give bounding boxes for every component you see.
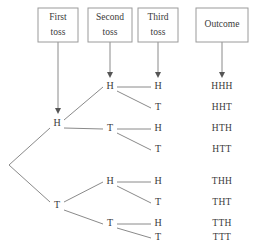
- pointer-first-toss-arrowhead: [55, 108, 61, 114]
- node-l1-0-h: H: [53, 117, 60, 128]
- node-l2-3-t: T: [107, 217, 113, 228]
- branch-l2-3-to-l3-7: [117, 228, 151, 238]
- coin-toss-tree-diagram: FirsttossSecondtossThirdtossOutcome HTHT…: [0, 0, 255, 250]
- node-l3-5-t: T: [155, 196, 161, 207]
- outcome-label-thh: THH: [212, 176, 232, 186]
- header-box-first-toss-line1: First: [49, 12, 67, 22]
- outcome-label-hhh: HHH: [211, 81, 232, 91]
- node-l3-2-h: H: [154, 122, 161, 133]
- node-l2-0-h: H: [106, 80, 113, 91]
- pointer-second-toss-arrowhead: [107, 72, 113, 78]
- branch-lines-group: [9, 87, 151, 238]
- header-box-outcome-label: Outcome: [205, 19, 240, 29]
- node-l1-1-t: T: [54, 199, 60, 210]
- outcome-label-ttt: TTT: [213, 232, 231, 242]
- node-l3-3-t: T: [155, 143, 161, 154]
- branch-l1-1-to-l2-2: [64, 182, 103, 202]
- tree-diagram-canvas: FirsttossSecondtossThirdtossOutcome HTHT…: [0, 0, 255, 250]
- node-l3-4-h: H: [154, 175, 161, 186]
- branch-l1-1-to-l2-3: [64, 210, 103, 224]
- header-box-second-toss-line2: toss: [103, 27, 118, 37]
- branch-l1-0-to-l2-0: [64, 87, 103, 120]
- header-box-first-toss-line2: toss: [51, 27, 66, 37]
- outcome-label-tth: TTH: [212, 218, 231, 228]
- outcome-labels-group: HHHHHTHTHHTTTHHTHTTTHTTT: [211, 81, 232, 242]
- node-l2-1-t: T: [107, 122, 113, 133]
- branch-l2-1-to-l3-3: [117, 133, 151, 150]
- tree-nodes-group: HTHTHTHTHTHTHT: [53, 80, 161, 242]
- header-box-third-toss-line1: Third: [147, 12, 168, 22]
- node-l3-0-h: H: [154, 80, 161, 91]
- node-l2-2-h: H: [106, 175, 113, 186]
- outcome-label-hht: HHT: [212, 102, 232, 112]
- pointer-third-toss-arrowhead: [155, 72, 161, 78]
- branch-root-to-h-0: [9, 128, 50, 165]
- branch-l2-2-to-l3-5: [117, 186, 151, 203]
- branch-l1-0-to-l2-1: [64, 128, 103, 129]
- header-box-second-toss-line1: Second: [96, 12, 124, 22]
- header-box-third-toss-line2: toss: [151, 27, 166, 37]
- node-l3-6-h: H: [154, 217, 161, 228]
- branch-root-to-t-1: [9, 165, 50, 202]
- pointer-outcome-arrowhead: [219, 72, 225, 78]
- column-headers-group: FirsttossSecondtossThirdtossOutcome: [38, 8, 248, 42]
- column-pointers-group: [55, 42, 225, 114]
- outcome-label-hth: HTH: [212, 123, 232, 133]
- outcome-label-htt: HTT: [212, 144, 231, 154]
- outcome-label-tht: THT: [212, 197, 231, 207]
- node-l3-1-t: T: [155, 101, 161, 112]
- branch-l2-0-to-l3-1: [117, 91, 151, 108]
- node-l3-7-t: T: [155, 231, 161, 242]
